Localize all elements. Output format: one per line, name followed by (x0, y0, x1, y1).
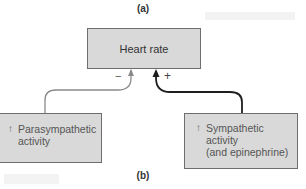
heart-rate-label: Heart rate (120, 43, 169, 55)
increase-arrow-icon: ↑ (196, 122, 206, 134)
panel-label-b: (b) (128, 170, 158, 181)
sympathetic-box: ↑Sympathetic activity (and epinephrine) (184, 113, 298, 169)
sympathetic-label: Sympathetic activity (and epinephrine) (206, 122, 288, 158)
inhibitory-arrowhead (128, 69, 134, 76)
inhibitory-sign: − (115, 70, 121, 82)
parasympathetic-box: ↑Parasympathetic activity (0, 113, 102, 163)
scan-artifact (4, 174, 59, 184)
increase-arrow-icon: ↑ (8, 123, 18, 135)
excitatory-sign: + (164, 69, 171, 83)
excitatory-arrowhead (153, 69, 160, 77)
heart-rate-box: Heart rate (87, 28, 201, 69)
parasympathetic-label: Parasympathetic activity (18, 123, 96, 147)
